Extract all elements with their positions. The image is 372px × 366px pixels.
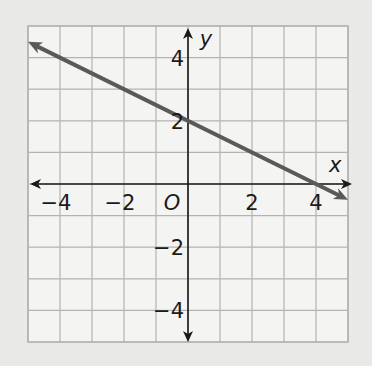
x-tick-label: 4 [309,191,322,215]
y-tick-label: 4 [171,47,184,71]
coordinate-plane: −4−22442−2−4Oxy [0,0,372,366]
coordinate-plane-figure: −4−22442−2−4Oxy [0,0,372,366]
x-tick-label: −2 [105,191,136,215]
y-tick-label: 2 [171,110,184,134]
y-axis-label: y [199,27,213,51]
y-tick-label: −4 [153,299,184,323]
origin-label: O [164,191,181,215]
x-tick-label: 2 [245,191,258,215]
y-tick-label: −2 [153,236,184,260]
x-tick-label: −4 [41,191,72,215]
x-axis-label: x [328,153,342,177]
